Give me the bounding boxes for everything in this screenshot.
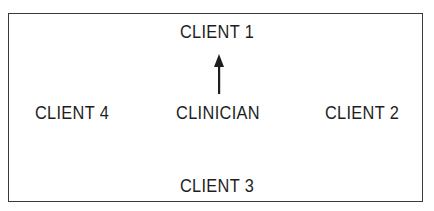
client-4-label: CLIENT 4 [26, 103, 119, 123]
client-2-label: CLIENT 2 [316, 103, 409, 123]
client-1-label: CLIENT 1 [171, 22, 264, 42]
client-3-label: CLIENT 3 [171, 176, 264, 196]
clinician-label: CLINICIAN [160, 103, 277, 123]
arrow-up-icon [212, 54, 226, 94]
